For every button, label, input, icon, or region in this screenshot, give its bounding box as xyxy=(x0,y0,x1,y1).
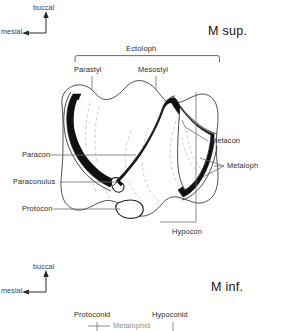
lower-compass-arrowhead-mesial xyxy=(22,289,29,294)
hypocon-label: Hypocon xyxy=(172,228,202,235)
paracon-label: Paracon xyxy=(22,151,50,158)
upper-compass-buccal-label: buccal xyxy=(33,4,54,11)
lower-section-title: M inf. xyxy=(211,281,243,294)
parastyl-label: Parastyl xyxy=(74,66,102,73)
upper-section-title: M sup. xyxy=(208,25,247,38)
protocon-label: Protocon xyxy=(22,205,52,212)
protoconid-label: Protoconid xyxy=(74,311,110,318)
upper-compass-arrowhead-buccal xyxy=(43,11,48,18)
paraconulus-label: Paraconulus xyxy=(13,178,55,185)
lower-compass-buccal-label: buccal xyxy=(33,263,54,270)
upper-compass-mesial-label: mesial xyxy=(1,28,22,35)
ectoloph-label: Ectoloph xyxy=(126,45,156,53)
upper-compass-arrows xyxy=(25,14,46,33)
lower-compass-arrowhead-buccal xyxy=(43,270,48,277)
metaloph-label: Metaloph xyxy=(227,162,258,169)
hypocon-leader-line xyxy=(160,205,196,222)
metalophid-label: Metalophid xyxy=(113,322,150,329)
hypoconid-label: Hypoconid xyxy=(152,311,188,318)
metacon-label: Metacon xyxy=(211,137,240,144)
mesostyl-label: Mesostyl xyxy=(138,66,168,73)
lower-compass-arrows xyxy=(25,273,46,292)
ectoloph-bracket xyxy=(75,56,220,62)
upper-compass-arrowhead-mesial xyxy=(22,30,29,35)
tooth-morphology-figure: buccal mesial M sup. Ectoloph Parastyl M… xyxy=(0,0,281,331)
lower-compass-mesial-label: mesial xyxy=(1,287,22,294)
